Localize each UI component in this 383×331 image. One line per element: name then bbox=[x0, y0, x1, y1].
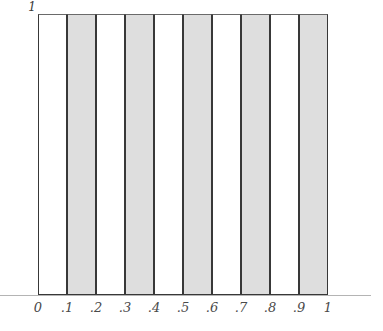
x-tick-label: .2 bbox=[82, 299, 110, 317]
histogram-bar bbox=[270, 14, 299, 295]
x-tick-label: .5 bbox=[169, 299, 197, 317]
histogram-bar bbox=[154, 14, 183, 295]
x-axis-tick-labels: 0.1.2.3.4.5.6.7.8.91 bbox=[0, 299, 383, 319]
histogram-bar bbox=[67, 14, 96, 295]
x-tick-label: .1 bbox=[53, 299, 81, 317]
histogram-bar bbox=[38, 14, 67, 295]
x-tick-label: .9 bbox=[285, 299, 313, 317]
histogram-bar bbox=[125, 14, 154, 295]
x-tick-label: .6 bbox=[198, 299, 226, 317]
x-tick-label: 1 bbox=[314, 299, 342, 317]
x-tick-label: .4 bbox=[140, 299, 168, 317]
x-tick-label: .7 bbox=[227, 299, 255, 317]
bars-area bbox=[38, 14, 328, 295]
histogram-bar bbox=[299, 14, 328, 295]
histogram-bar bbox=[212, 14, 241, 295]
histogram-bar bbox=[183, 14, 212, 295]
y-axis-max-label: 1 bbox=[22, 0, 36, 14]
x-tick-label: .8 bbox=[256, 299, 284, 317]
x-axis-line bbox=[0, 295, 371, 296]
histogram-bar bbox=[96, 14, 125, 295]
x-tick-label: .3 bbox=[111, 299, 139, 317]
x-tick-label: 0 bbox=[24, 299, 52, 317]
uniform-distribution-histogram: 1 0.1.2.3.4.5.6.7.8.91 bbox=[0, 0, 383, 331]
histogram-bar bbox=[241, 14, 270, 295]
